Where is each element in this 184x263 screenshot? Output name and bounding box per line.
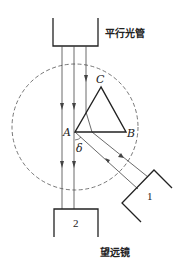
collimator-label: 平行光管	[105, 27, 145, 39]
vertex-a-label: A	[62, 126, 71, 139]
telescope-number: 2	[73, 217, 79, 229]
telescope-label: 望远镜	[100, 246, 130, 258]
incident-rays	[62, 46, 148, 209]
deviation-angle-arc	[75, 137, 81, 140]
deviation-angle-label: δ	[76, 142, 83, 155]
prism-spectrometer-diagram: 平行光管 C A B δ 1 2 望远镜	[0, 0, 184, 263]
vertex-b-label: B	[126, 127, 135, 140]
vertex-c-label: C	[96, 73, 105, 86]
collimator-tube	[53, 18, 98, 46]
mirror-1-label: 1	[147, 190, 153, 202]
ray-arrows	[60, 75, 124, 168]
table-circle	[12, 64, 138, 190]
prism-triangle	[75, 87, 126, 132]
